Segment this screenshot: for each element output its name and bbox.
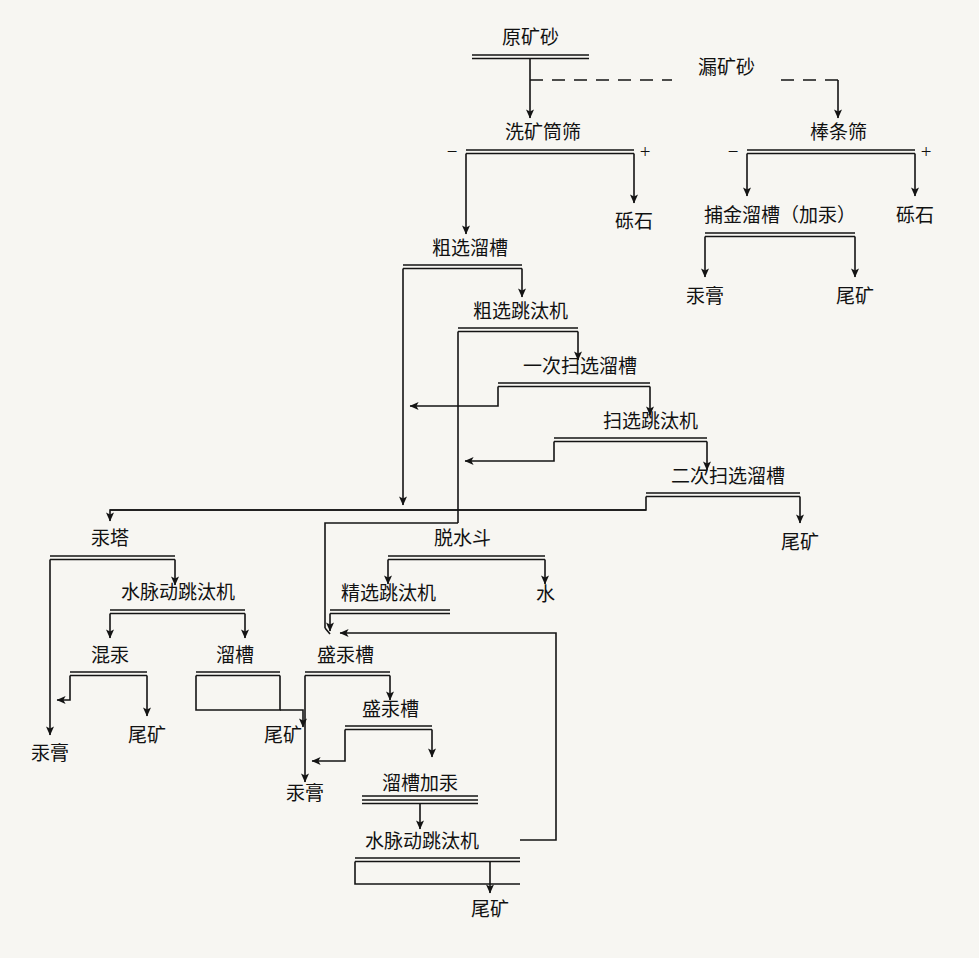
node-label-rough-jig: 粗选跳汰机 <box>473 301 568 322</box>
node-label-water: 水 <box>536 584 555 605</box>
node-label-pulse-jig-left: 水脉动跳汰机 <box>121 582 235 603</box>
node-label-pulse-jig-bottom: 水脉动跳汰机 <box>365 831 479 852</box>
node-label-amalgam-right: 汞膏 <box>686 285 724 307</box>
node-label-clean-jig: 精选跳汰机 <box>341 583 436 604</box>
node-label-gravel-right: 砾石 <box>896 205 934 226</box>
node-label-gold-trap-sluice: 捕金溜槽（加汞） <box>704 205 856 226</box>
node-label-sluice-add-merc: 溜槽加汞 <box>382 773 458 794</box>
sign-minus-wash-screen: − <box>447 141 458 162</box>
node-label-gravel-left: 砾石 <box>615 211 653 232</box>
node-label-tailing-sluice-left: 尾矿 <box>264 725 302 746</box>
node-label-amalgam-left: 汞膏 <box>31 742 69 764</box>
node-label-amalgam-center: 汞膏 <box>286 782 324 804</box>
node-label-scav-jig: 扫选跳汰机 <box>603 411 698 432</box>
node-label-merc-trough-2: 盛汞槽 <box>362 699 419 720</box>
sign-plus-bar-screen: + <box>921 141 932 162</box>
sign-minus-bar-screen: − <box>728 141 739 162</box>
node-label-tailing-mix: 尾矿 <box>128 725 166 746</box>
node-label-bar-screen: 棒条筛 <box>810 122 867 143</box>
node-label-merc-trough-1: 盛汞槽 <box>317 645 374 666</box>
flowchart-canvas: 原矿砂 漏矿砂 洗矿筒筛 − + 砾石 棒条筛 − + 砾石 捕金溜槽（加汞） … <box>0 0 979 958</box>
background <box>0 0 979 958</box>
node-label-tailing-right: 尾矿 <box>836 286 874 307</box>
node-label-mixed-mercury: 混汞 <box>91 645 129 666</box>
node-label-scav1-sluice: 一次扫选溜槽 <box>523 356 637 377</box>
node-label-tailing-bottom: 尾矿 <box>471 899 509 920</box>
edge-label-leak-ore: 漏矿砂 <box>698 57 755 78</box>
node-label-tailing-scav2: 尾矿 <box>781 532 819 553</box>
node-label-mercury-tower: 汞塔 <box>91 528 129 549</box>
flowchart-svg: 原矿砂 漏矿砂 洗矿筒筛 − + 砾石 棒条筛 − + 砾石 捕金溜槽（加汞） … <box>0 0 979 958</box>
node-label-sluice-left: 溜槽 <box>216 645 254 666</box>
node-label-wash-drum-screen: 洗矿筒筛 <box>505 122 581 143</box>
node-label-rough-sluice: 粗选溜槽 <box>432 238 508 259</box>
node-label-scav2-sluice: 二次扫选溜槽 <box>671 466 785 487</box>
node-label-raw-ore: 原矿砂 <box>502 27 559 48</box>
sign-plus-wash-screen: + <box>640 141 651 162</box>
node-label-dewater-bucket: 脱水斗 <box>434 528 491 549</box>
